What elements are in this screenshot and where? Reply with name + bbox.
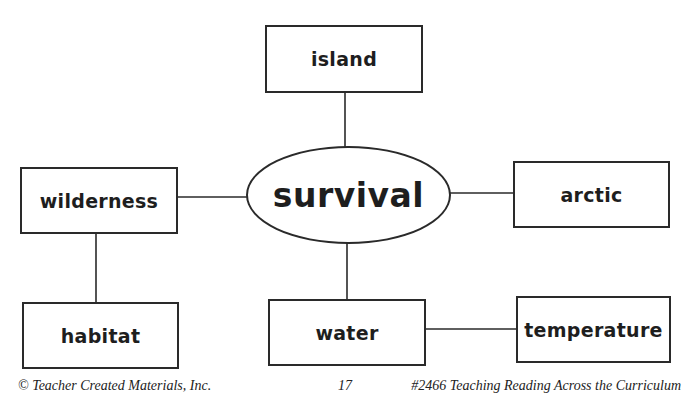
node-label: island — [311, 48, 377, 70]
node-temperature: temperature — [516, 296, 671, 363]
node-habitat: habitat — [22, 302, 179, 369]
footer-book-title: #2466 Teaching Reading Across the Curric… — [411, 378, 681, 394]
center-node-label: survival — [273, 176, 424, 215]
footer-copyright: © Teacher Created Materials, Inc. — [18, 378, 211, 394]
node-label: water — [315, 322, 378, 344]
node-wilderness: wilderness — [20, 167, 178, 234]
node-water: water — [268, 299, 426, 366]
node-arctic: arctic — [513, 161, 670, 228]
node-island: island — [265, 25, 423, 93]
node-label: temperature — [524, 319, 663, 341]
center-node-survival: survival — [246, 146, 451, 244]
node-label: wilderness — [40, 190, 158, 212]
node-label: habitat — [61, 325, 141, 347]
footer-page-number: 17 — [338, 378, 352, 394]
node-label: arctic — [560, 184, 622, 206]
